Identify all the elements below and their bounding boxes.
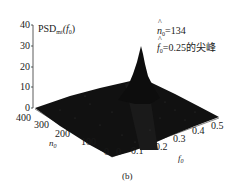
- f-axis-label: f0: [178, 154, 184, 164]
- f-tick-0.1: 0.1: [131, 146, 144, 156]
- z-tick-30: 30: [20, 41, 30, 51]
- psd-peak-spike: [118, 46, 160, 104]
- z-tick-20: 20: [20, 62, 30, 72]
- n-axis-label: n0: [49, 139, 57, 149]
- f-tick-0.4: 0.4: [192, 126, 205, 136]
- panel-label: (b): [122, 172, 133, 181]
- n-tick-300: 300: [34, 120, 49, 130]
- z-tick-10: 10: [20, 82, 30, 92]
- z-tick-40: 40: [20, 20, 30, 30]
- n-tick-100: 100: [81, 137, 96, 147]
- n-tick-0: 0: [104, 147, 109, 157]
- f-tick-0.3: 0.3: [173, 134, 186, 144]
- peak-annotation-f: f0=0.25的尖峰: [157, 43, 216, 54]
- z-axis-label: PSDmt(f0): [38, 24, 75, 35]
- f-tick-0.5: 0.5: [211, 121, 224, 131]
- n-tick-400: 400: [16, 113, 31, 123]
- psd-surface-plot: [0, 0, 242, 186]
- f-tick-0.2: 0.2: [155, 142, 168, 152]
- n-tick-200: 200: [55, 129, 70, 139]
- f-tick-0: 0: [116, 147, 121, 157]
